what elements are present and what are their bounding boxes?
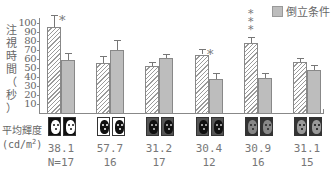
face-stimulus-thumbnail bbox=[196, 117, 209, 136]
error-bar-cap bbox=[163, 54, 170, 55]
face-feature bbox=[250, 124, 252, 126]
face-feature bbox=[70, 128, 72, 130]
x-axis-end-tick bbox=[323, 109, 324, 114]
face-stimulus-thumbnail bbox=[48, 117, 61, 136]
luminance-row-label: 平均輝度 bbox=[2, 122, 42, 137]
face-feature bbox=[220, 124, 222, 126]
face-feature bbox=[106, 124, 108, 126]
face-stimulus-thumbnail bbox=[63, 117, 76, 136]
error-bar bbox=[68, 53, 69, 60]
face-feature bbox=[318, 124, 320, 126]
face-stimulus-thumbnail bbox=[309, 117, 322, 136]
bar-inverted bbox=[159, 58, 173, 113]
luminance-value: 57.7 bbox=[90, 142, 130, 155]
sample-size-value: 16 bbox=[238, 156, 278, 169]
face-feature bbox=[168, 128, 170, 130]
face-feature bbox=[153, 128, 155, 130]
luminance-value: 31.1 bbox=[287, 142, 327, 155]
face-feature bbox=[269, 124, 271, 126]
error-bar-cap bbox=[51, 15, 58, 16]
face-stimulus-thumbnail bbox=[161, 117, 174, 136]
error-bar-cap bbox=[297, 58, 304, 59]
face-feature bbox=[216, 124, 218, 126]
face-stimulus-thumbnail bbox=[211, 117, 224, 136]
error-bar-cap bbox=[149, 62, 156, 63]
error-bar bbox=[117, 40, 118, 50]
face-stimulus-thumbnail bbox=[294, 117, 307, 136]
bar-inverted bbox=[307, 70, 321, 113]
face-feature bbox=[170, 124, 172, 126]
face-icon bbox=[312, 120, 321, 134]
luminance-value: 31.2 bbox=[139, 142, 179, 155]
error-bar-cap bbox=[248, 37, 255, 38]
sample-size-value: N=17 bbox=[41, 156, 81, 169]
luminance-value: 30.4 bbox=[189, 142, 229, 155]
significance-marker: * bbox=[207, 50, 214, 59]
face-feature bbox=[303, 124, 305, 126]
legend: 倒立条件 bbox=[272, 3, 330, 19]
face-feature bbox=[267, 128, 269, 130]
sample-size-value: 16 bbox=[90, 156, 130, 169]
face-feature bbox=[117, 124, 119, 126]
face-feature bbox=[119, 128, 121, 130]
face-stimulus-thumbnail bbox=[245, 117, 258, 136]
face-stimulus-thumbnail bbox=[97, 117, 110, 136]
face-feature bbox=[252, 128, 254, 130]
face-feature bbox=[254, 124, 256, 126]
sample-size-value: 12 bbox=[189, 156, 229, 169]
face-feature bbox=[72, 124, 74, 126]
sample-size-value: 17 bbox=[139, 156, 179, 169]
face-icon bbox=[263, 120, 272, 134]
luminance-value: 30.9 bbox=[238, 142, 278, 155]
bar-upright bbox=[195, 55, 209, 114]
face-icon bbox=[297, 120, 306, 134]
face-feature bbox=[166, 124, 168, 126]
luminance-value: 38.1 bbox=[41, 142, 81, 155]
error-bar-cap bbox=[199, 49, 206, 50]
bar-inverted bbox=[110, 50, 124, 113]
luminance-unit-label: (cd/m2) bbox=[2, 138, 42, 150]
face-feature bbox=[299, 124, 301, 126]
face-feature bbox=[201, 124, 203, 126]
face-feature bbox=[316, 128, 318, 130]
bar-inverted bbox=[61, 60, 75, 113]
face-feature bbox=[104, 128, 106, 130]
face-stimulus-thumbnail bbox=[146, 117, 159, 136]
face-feature bbox=[53, 124, 55, 126]
bar-upright bbox=[47, 27, 61, 113]
face-icon bbox=[66, 120, 75, 134]
face-feature bbox=[155, 124, 157, 126]
face-feature bbox=[151, 124, 153, 126]
significance-marker: * bbox=[59, 16, 66, 25]
face-icon bbox=[100, 120, 109, 134]
y-axis-line bbox=[39, 18, 40, 113]
bar-upright bbox=[293, 62, 307, 113]
face-feature bbox=[121, 124, 123, 126]
error-bar-cap bbox=[114, 40, 121, 41]
y-tick-label: 10 bbox=[12, 99, 36, 109]
face-feature bbox=[301, 128, 303, 130]
legend-swatch-inverted bbox=[272, 6, 283, 17]
bar-upright bbox=[96, 63, 110, 113]
error-bar-cap bbox=[65, 53, 72, 54]
error-bar-cap bbox=[262, 73, 269, 74]
face-icon bbox=[248, 120, 257, 134]
face-icon bbox=[214, 120, 223, 134]
bar-upright bbox=[145, 66, 159, 113]
x-axis-line bbox=[39, 113, 324, 114]
error-bar-cap bbox=[100, 56, 107, 57]
face-feature bbox=[203, 128, 205, 130]
face-feature bbox=[205, 124, 207, 126]
face-feature bbox=[55, 128, 57, 130]
face-icon bbox=[199, 120, 208, 134]
face-stimulus-thumbnail bbox=[260, 117, 273, 136]
face-feature bbox=[314, 124, 316, 126]
bar-inverted bbox=[258, 78, 272, 113]
face-icon bbox=[51, 120, 60, 134]
face-feature bbox=[218, 128, 220, 130]
face-icon bbox=[115, 120, 124, 134]
legend-label-inverted: 倒立条件 bbox=[286, 3, 330, 19]
face-icon bbox=[149, 120, 158, 134]
sample-size-value: 15 bbox=[287, 156, 327, 169]
significance-marker: * bbox=[248, 25, 254, 34]
